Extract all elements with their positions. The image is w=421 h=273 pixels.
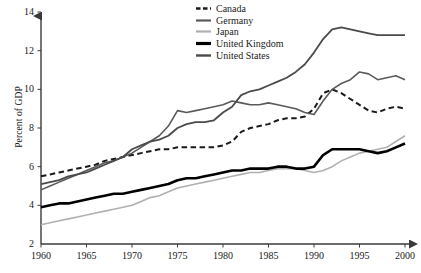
x-tick-label: 1970 xyxy=(112,251,152,261)
legend-label: Japan xyxy=(216,26,239,37)
y-tick-label: 10 xyxy=(8,84,34,94)
series-line-canada xyxy=(41,89,405,176)
chart-legend: CanadaGermanyJapanUnited KingdomUnited S… xyxy=(196,3,284,61)
y-tick-label: 2 xyxy=(8,239,34,249)
legend-line-swatch-icon xyxy=(196,3,211,14)
legend-line-swatch-icon xyxy=(196,26,211,37)
legend-label: Germany xyxy=(216,15,253,26)
x-tick-label: 1985 xyxy=(249,251,289,261)
series-line-united-kingdom xyxy=(41,143,405,207)
y-tick-label: 6 xyxy=(8,162,34,172)
y-tick-label: 12 xyxy=(8,46,34,56)
x-tick-label: 1980 xyxy=(203,251,243,261)
x-tick-label: 1960 xyxy=(21,251,61,261)
legend-line-swatch-icon xyxy=(196,38,211,49)
x-tick-label: 1965 xyxy=(67,251,107,261)
legend-line-swatch-icon xyxy=(196,15,211,26)
legend-item-united-states: United States xyxy=(196,49,284,61)
x-tick-label: 2000 xyxy=(385,251,421,261)
legend-label: Canada xyxy=(216,3,246,14)
legend-label: United Kingdom xyxy=(216,38,284,49)
legend-item-united-kingdom: United Kingdom xyxy=(196,38,284,50)
legend-item-canada: Canada xyxy=(196,3,284,15)
y-tick-label: 4 xyxy=(8,200,34,210)
y-tick-label: 8 xyxy=(8,123,34,133)
x-tick-label: 1975 xyxy=(158,251,198,261)
legend-item-japan: Japan xyxy=(196,26,284,38)
x-tick-label: 1990 xyxy=(294,251,334,261)
legend-line-swatch-icon xyxy=(196,50,211,61)
legend-item-germany: Germany xyxy=(196,15,284,27)
legend-label: United States xyxy=(216,50,270,61)
y-tick-label: 14 xyxy=(8,7,34,17)
chart-container: Percent of GDP 2468101214 19601965197019… xyxy=(0,0,421,273)
x-tick-label: 1995 xyxy=(340,251,380,261)
